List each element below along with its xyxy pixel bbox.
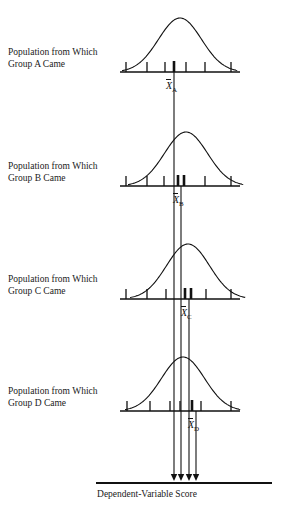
mean-symbol-b: X: [173, 194, 179, 205]
distribution-curve-b: [128, 132, 243, 185]
mean-label-group-d: XD: [188, 419, 199, 433]
mean-subscript-b: B: [179, 200, 184, 208]
panel-label-group-c: Population from Which Group C Came: [8, 274, 120, 297]
mean-subscript-c: C: [187, 313, 192, 321]
panel-label-group-a: Population from Which Group A Came: [8, 47, 120, 70]
distribution-curve-d: [125, 357, 240, 410]
mean-arrowhead-c: [186, 474, 192, 481]
distribution-curve-a: [122, 18, 237, 71]
mean-arrowhead-a: [171, 474, 177, 481]
dependent-variable-axis-caption: Dependent-Variable Score: [0, 489, 294, 499]
mean-symbol-c: X: [181, 307, 187, 318]
mean-subscript-a: A: [172, 86, 177, 94]
mean-subscript-d: D: [194, 425, 199, 433]
mean-symbol-d: X: [188, 419, 194, 430]
figure-canvas: [0, 0, 294, 514]
mean-label-group-b: XB: [173, 194, 184, 208]
mean-arrowhead-d: [193, 474, 199, 481]
mean-label-group-a: XA: [166, 80, 177, 94]
panel-label-group-b: Population from Which Group B Came: [8, 161, 120, 184]
mean-symbol-a: X: [166, 80, 172, 91]
anova-population-distributions-figure: Population from Which Group A Came Popul…: [0, 0, 294, 514]
panel-label-group-d: Population from Which Group D Came: [8, 386, 120, 409]
mean-label-group-c: XC: [181, 307, 192, 321]
mean-arrowhead-b: [178, 474, 184, 481]
